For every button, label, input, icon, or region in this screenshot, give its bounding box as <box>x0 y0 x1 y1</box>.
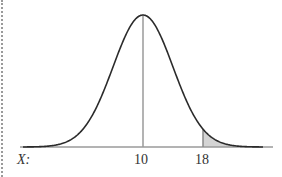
tick-label-cutoff: 18 <box>195 153 209 167</box>
normal-distribution-figure: X: 10 18 <box>0 0 282 177</box>
normal-curve-plot <box>0 0 282 177</box>
x-axis-label: X: <box>17 153 30 167</box>
tick-label-mean: 10 <box>134 153 148 167</box>
